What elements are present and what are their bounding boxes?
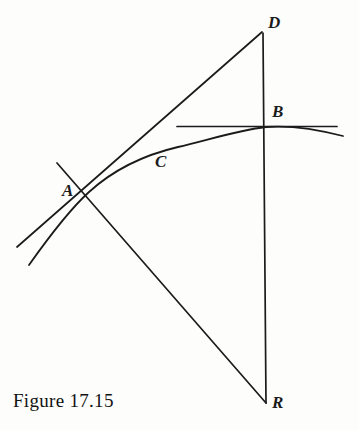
figure-caption: Figure 17.15 — [13, 390, 114, 412]
line-segment-D-A-extended — [17, 32, 262, 247]
figure-container: D B C A R Figure 17.15 — [0, 0, 359, 430]
point-label-B: B — [272, 103, 283, 120]
vertical-line-D-B-R — [263, 33, 266, 403]
line-segment-through-A-to-R — [57, 163, 266, 403]
geometry-drawing — [0, 0, 359, 430]
point-label-D: D — [268, 14, 280, 31]
point-label-R: R — [272, 394, 283, 411]
point-label-C: C — [155, 153, 166, 170]
point-label-A: A — [62, 182, 73, 199]
